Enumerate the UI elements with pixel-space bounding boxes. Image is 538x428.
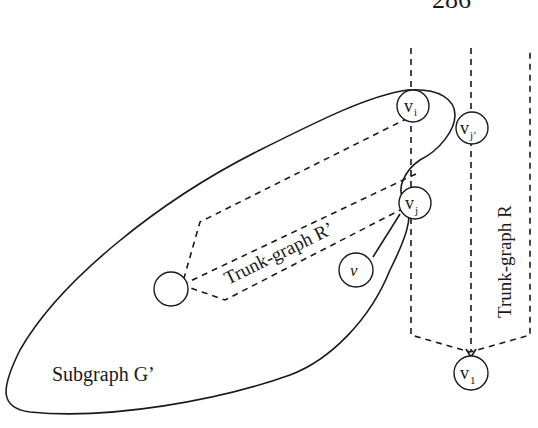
edge-v-vj: [373, 214, 400, 257]
node-v: v: [339, 253, 373, 287]
node-vj-prime-label: v: [460, 118, 469, 138]
node-vj-prime: v j’: [456, 112, 488, 144]
trunk-graph-r-label: Trunk-graph R: [494, 205, 515, 318]
trunk-graph-r-prime-label: Trunk-graph R’: [221, 218, 337, 289]
node-v1-label: v: [460, 363, 469, 383]
node-vj: v j: [399, 187, 431, 219]
diagram-canvas: 286 v i v j’ v j v v 1 Subgraph G’ Trunk…: [0, 0, 538, 428]
subgraph-g-prime-label: Subgraph G’: [52, 363, 155, 386]
trunk-graph-r-prime-outline: [182, 118, 410, 300]
node-vi: v i: [397, 90, 429, 122]
node-v1-sub: 1: [470, 374, 476, 386]
node-vj-sub: j: [414, 204, 418, 216]
node-vi-label: v: [404, 96, 413, 116]
node-vj-label: v: [405, 193, 414, 213]
node-vj-prime-sub: j’: [469, 129, 477, 141]
node-v-label: v: [350, 261, 358, 280]
node-vi-sub: i: [414, 106, 417, 118]
page-number: 286: [432, 0, 471, 14]
node-v1: v 1: [454, 356, 488, 390]
trunk-graph-r-prime-edge: [182, 172, 420, 285]
node-root: [154, 272, 188, 306]
